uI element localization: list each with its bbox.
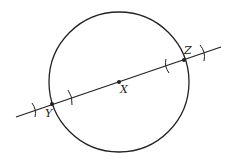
construction-diagram: X Y Z	[0, 0, 233, 159]
label-y: Y	[45, 107, 54, 120]
arc-mark-y-inner	[68, 90, 72, 105]
point-y	[50, 102, 54, 106]
label-z: Z	[183, 44, 192, 57]
arc-mark-y-outer	[32, 103, 36, 117]
label-x: X	[119, 83, 129, 96]
point-z	[182, 58, 186, 62]
